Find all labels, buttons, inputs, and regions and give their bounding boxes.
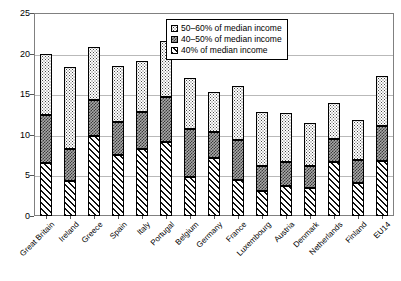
bar-segment[interactable] <box>184 129 196 177</box>
bar-segment[interactable] <box>232 180 244 216</box>
x-tick-mark <box>262 216 263 219</box>
x-tick-mark <box>190 216 191 219</box>
bar-group[interactable] <box>304 13 316 216</box>
bar-segment[interactable] <box>304 188 316 216</box>
x-axis-label: Italy <box>135 220 152 237</box>
x-tick-mark <box>46 216 47 219</box>
legend-item[interactable]: 40% of median income <box>171 45 282 56</box>
x-tick-mark <box>358 216 359 219</box>
bar-segment[interactable] <box>376 76 388 126</box>
bar-segment[interactable] <box>304 123 316 166</box>
bar-segment[interactable] <box>208 132 220 158</box>
x-tick-mark <box>142 216 143 219</box>
bar-segment[interactable] <box>184 177 196 216</box>
bar-segment[interactable] <box>112 66 124 122</box>
bar-segment[interactable] <box>376 161 388 216</box>
bar-group[interactable] <box>88 13 100 216</box>
bar-segment[interactable] <box>256 191 268 216</box>
bar-segment[interactable] <box>40 163 52 216</box>
bar-segment[interactable] <box>88 100 100 136</box>
bar-segment[interactable] <box>136 149 148 216</box>
bar-segment[interactable] <box>232 86 244 140</box>
x-tick-mark <box>94 216 95 219</box>
bar-segment[interactable] <box>352 160 364 183</box>
bar-segment[interactable] <box>328 162 340 216</box>
bar-segment[interactable] <box>256 166 268 191</box>
y-tick-label-10: 10 <box>4 130 30 139</box>
bar-segment[interactable] <box>328 103 340 139</box>
bar-segment[interactable] <box>88 136 100 216</box>
bar-segment[interactable] <box>328 139 340 162</box>
bar-segment[interactable] <box>112 155 124 216</box>
legend-item[interactable]: 40–50% of median income <box>171 34 282 45</box>
bar-segment[interactable] <box>376 126 388 161</box>
bar-segment[interactable] <box>112 122 124 155</box>
bar-segment[interactable] <box>280 162 292 186</box>
bar-segment[interactable] <box>280 186 292 216</box>
x-axis-label: Greece <box>80 220 105 245</box>
x-tick-mark <box>214 216 215 219</box>
bar-segment[interactable] <box>208 158 220 216</box>
x-tick-mark <box>334 216 335 219</box>
x-axis-label: Finland <box>344 220 369 245</box>
y-tick-label-0: 0 <box>4 212 30 221</box>
bar-segment[interactable] <box>352 120 364 160</box>
legend-item-label: 40–50% of median income <box>181 34 282 45</box>
bar-segment[interactable] <box>64 149 76 181</box>
bar-segment[interactable] <box>256 112 268 166</box>
y-tick-label-25: 25 <box>4 9 30 18</box>
bar-segment[interactable] <box>160 97 172 142</box>
x-tick-mark <box>166 216 167 219</box>
legend-item-label: 50–60% of median income <box>181 23 282 34</box>
bar-segment[interactable] <box>160 142 172 216</box>
x-axis-label: Spain <box>108 220 129 241</box>
bar-segment[interactable] <box>136 112 148 149</box>
bar-group[interactable] <box>376 13 388 216</box>
bar-segment[interactable] <box>304 166 316 189</box>
bar-segment[interactable] <box>184 78 196 129</box>
bar-group[interactable] <box>328 13 340 216</box>
bar-segment[interactable] <box>40 54 52 115</box>
bar-group[interactable] <box>136 13 148 216</box>
x-tick-mark <box>382 216 383 219</box>
y-tick-label-20: 20 <box>4 49 30 58</box>
bar-group[interactable] <box>352 13 364 216</box>
bar-segment[interactable] <box>64 67 76 149</box>
x-tick-mark <box>310 216 311 219</box>
x-axis-label: Ireland <box>57 220 81 244</box>
bar-group[interactable] <box>64 13 76 216</box>
bar-segment[interactable] <box>280 113 292 162</box>
x-tick-mark <box>70 216 71 219</box>
x-tick-mark <box>118 216 119 219</box>
bar-segment[interactable] <box>232 140 244 180</box>
legend-item-label: 40% of median income <box>181 45 267 56</box>
bar-segment[interactable] <box>136 61 148 112</box>
x-tick-mark <box>238 216 239 219</box>
y-tick-label-15: 15 <box>4 90 30 99</box>
bar-segment[interactable] <box>40 115 52 163</box>
x-axis-label: Portugal <box>149 220 176 247</box>
bar-group[interactable] <box>112 13 124 216</box>
y-axis: 0510152025 <box>0 0 30 281</box>
bar-segment[interactable] <box>64 181 76 216</box>
legend-item[interactable]: 50–60% of median income <box>171 23 282 34</box>
x-tick-mark <box>286 216 287 219</box>
x-axis: Great BritainIrelandGreeceSpainItalyPort… <box>34 216 394 281</box>
legend-swatch-checker-icon <box>171 36 178 43</box>
bar-segment[interactable] <box>352 183 364 216</box>
y-tick-label-5: 5 <box>4 171 30 180</box>
stacked-bar-chart: 0510152025 50–60% of median income40–50%… <box>0 0 401 281</box>
chart-legend: 50–60% of median income40–50% of median … <box>166 19 288 60</box>
bar-segment[interactable] <box>88 47 100 100</box>
legend-swatch-dotted-icon <box>171 25 178 32</box>
bar-segment[interactable] <box>208 92 220 133</box>
bar-group[interactable] <box>40 13 52 216</box>
legend-swatch-hatch-icon <box>171 47 178 54</box>
x-axis-label: EU14 <box>372 220 393 241</box>
